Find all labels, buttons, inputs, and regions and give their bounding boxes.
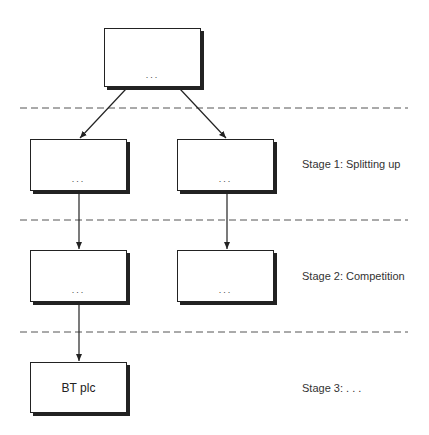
box-ellipsis: ... [105,70,200,80]
arrow-top-to-stage1-right [180,89,226,138]
stage3-bt-plc-box: BT plc [30,362,127,413]
box-ellipsis: ... [31,174,126,184]
stage-3-label: Stage 3: . . . [302,382,361,394]
stage-1-label: Stage 1: Splitting up [302,158,400,170]
arrow-top-to-stage1-left [80,89,126,138]
stage2-left-box: ... [30,250,127,302]
box-ellipsis: ... [178,285,273,295]
stage-2-label: Stage 2: Competition [302,270,405,282]
box-label: BT plc [31,381,126,395]
stage1-left-box: ... [30,139,127,191]
top-box: ... [104,28,201,87]
stage2-right-box: ... [177,250,274,302]
stage1-right-box: ... [177,139,274,191]
box-ellipsis: ... [31,285,126,295]
box-ellipsis: ... [178,174,273,184]
